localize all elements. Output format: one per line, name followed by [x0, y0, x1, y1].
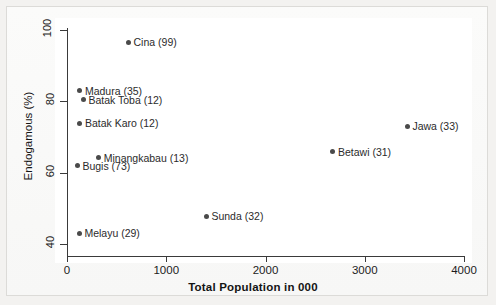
data-point-jawa: [405, 124, 410, 129]
y-axis-line: [67, 28, 68, 256]
y-tick-60: [60, 173, 67, 174]
y-tick-80: [60, 101, 67, 102]
data-point-cina: [126, 40, 131, 45]
data-point-label-batak-toba: Batak Toba (12): [88, 94, 162, 106]
y-tick-40: [60, 244, 67, 245]
data-point-label-cina: Cina (99): [134, 36, 177, 48]
x-axis-title-text: Total Population in 000: [178, 281, 318, 293]
data-point-label-betawi: Betawi (31): [338, 146, 391, 158]
y-tick-label-100: 100: [0, 22, 56, 34]
x-tick-label-3000: 3000: [335, 264, 395, 276]
data-point-label-sunda: Sunda (32): [211, 210, 263, 222]
x-tick-label-1000: 1000: [136, 264, 196, 276]
data-point-melayu: [77, 231, 82, 236]
y-tick-label-40: 40: [0, 236, 56, 248]
data-point-label-batak-karo: Batak Karo (12): [85, 117, 159, 129]
x-tick-0: [67, 256, 68, 262]
plot-area-background: [55, 18, 472, 263]
x-tick-label-0: 0: [37, 264, 97, 276]
x-tick-2000: [266, 256, 267, 262]
data-point-label-melayu: Melayu (29): [84, 227, 139, 239]
data-point-label-jawa: Jawa (33): [412, 120, 458, 132]
x-tick-3000: [365, 256, 366, 262]
data-point-label-bugis: Bugis (73): [82, 160, 130, 172]
x-axis-title: Total Population in 000: [0, 281, 496, 293]
y-tick-100: [60, 30, 67, 31]
x-tick-4000: [464, 256, 465, 262]
scatter-plot-figure: 406080100 01000200030004000 Cina (99)Mad…: [0, 0, 496, 305]
y-axis-title: Endogamous (%): [22, 46, 34, 226]
x-tick-1000: [166, 256, 167, 262]
data-point-sunda: [204, 214, 209, 219]
data-point-bugis: [75, 163, 80, 168]
x-tick-label-4000: 4000: [434, 264, 494, 276]
x-tick-label-2000: 2000: [236, 264, 296, 276]
